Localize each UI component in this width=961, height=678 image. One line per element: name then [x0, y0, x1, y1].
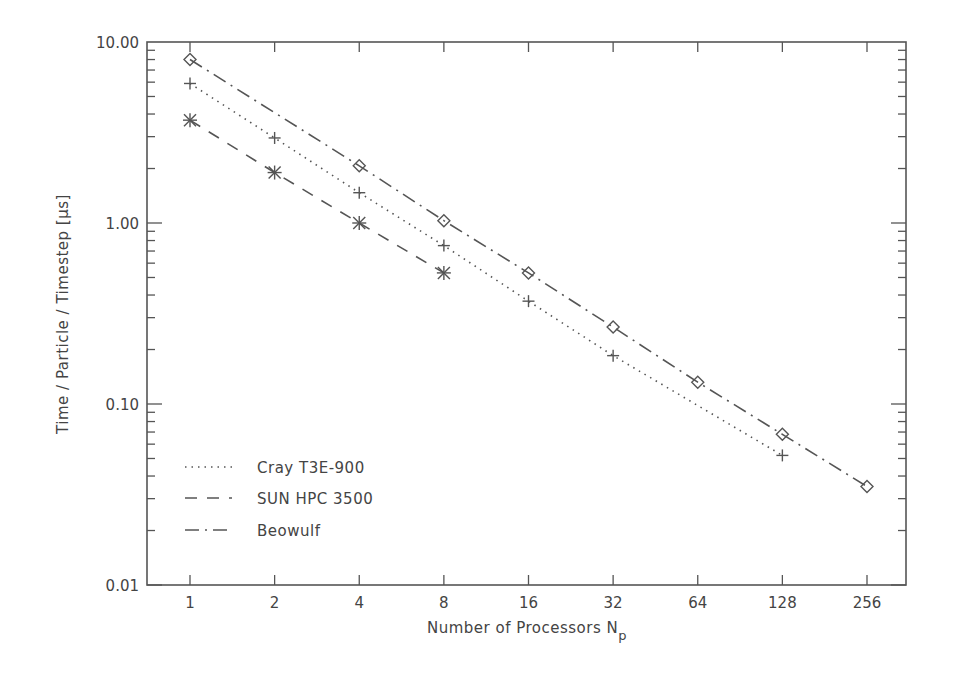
diamond-marker-icon [184, 54, 196, 66]
legend-label: SUN HPC 3500 [257, 490, 373, 508]
x-tick-label: 128 [768, 594, 797, 612]
series-sun-hpc-3500 [183, 113, 451, 280]
y-tick-label: 1.00 [106, 215, 139, 233]
legend-label: Cray T3E-900 [257, 459, 365, 477]
x-axis-label-subscript: p [618, 628, 627, 643]
y-tick-label: 0.01 [106, 577, 139, 595]
series-beowulf [184, 54, 873, 493]
asterisk-marker-icon [437, 266, 451, 280]
asterisk-marker-icon [352, 216, 366, 230]
x-tick-label: 64 [688, 594, 707, 612]
legend: Cray T3E-900SUN HPC 3500Beowulf [185, 459, 373, 540]
x-tick-label: 16 [519, 594, 538, 612]
diamond-marker-icon [607, 321, 619, 333]
x-axis-label-main: Number of Processors N [427, 619, 618, 637]
legend-label: Beowulf [257, 522, 321, 540]
diamond-marker-icon [861, 481, 873, 493]
series-line [190, 83, 782, 455]
plus-marker-icon [353, 187, 365, 199]
plus-marker-icon [523, 295, 535, 307]
asterisk-marker-icon [268, 166, 282, 180]
series-layer [183, 54, 873, 493]
plus-marker-icon [607, 350, 619, 362]
x-tick-label: 1 [185, 594, 195, 612]
x-axis-label: Number of Processors Np [427, 619, 627, 643]
asterisk-marker-icon [183, 113, 197, 127]
x-tick-label: 8 [439, 594, 449, 612]
y-tick-label: 0.10 [106, 396, 139, 414]
y-tick-label: 10.00 [96, 34, 139, 52]
plus-marker-icon [184, 77, 196, 89]
plus-marker-icon [438, 240, 450, 252]
x-tick-label: 2 [270, 594, 280, 612]
y-axis-label: Time / Particle / Timestep [μs] [54, 194, 72, 435]
x-tick-label: 32 [604, 594, 623, 612]
y-axis-ticks: 0.010.101.0010.00 [96, 34, 906, 595]
plus-marker-icon [776, 449, 788, 461]
x-tick-label: 4 [354, 594, 364, 612]
time-per-particle-chart: 0.010.101.0010.00 1248163264128256 Cray … [0, 0, 961, 678]
plus-marker-icon [269, 132, 281, 144]
x-tick-label: 256 [853, 594, 882, 612]
series-cray-t3e-900 [184, 77, 788, 461]
series-line [190, 60, 867, 487]
